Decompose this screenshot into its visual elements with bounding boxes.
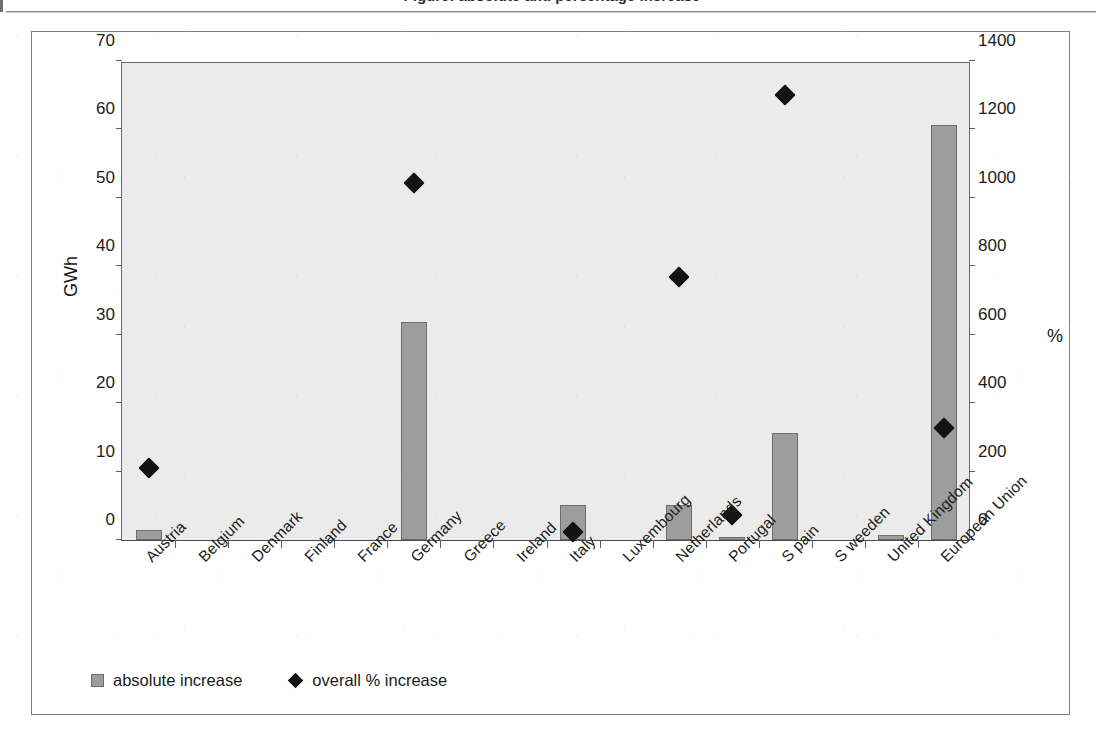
legend-label-absolute-increase: absolute increase <box>113 671 242 690</box>
bar-s-pain <box>772 433 798 540</box>
y-tickmark-left-50 <box>116 197 122 198</box>
y-tickmark-right-1400 <box>969 60 975 61</box>
cropped-title-strip: Figure: absolute and percentage increase <box>0 0 1104 10</box>
marker-portugal <box>722 504 743 525</box>
page-title: Figure: absolute and percentage increase <box>0 0 1104 4</box>
y-tickmark-left-10 <box>116 471 122 472</box>
x-tickmark-8 <box>547 540 548 548</box>
marker-austria <box>138 458 159 479</box>
bar-united-kingdom <box>878 535 904 540</box>
y-tickmark-left-30 <box>116 334 122 335</box>
header-rule-shadow <box>6 12 1096 13</box>
diamond-swatch-icon <box>288 673 304 689</box>
plot-inner: 0102030405060700200400600800100012001400 <box>122 63 969 540</box>
y-tickmark-left-70 <box>116 60 122 61</box>
y-tick-right-1200: 1200 <box>978 99 1016 119</box>
y-tickmark-right-0 <box>969 539 975 540</box>
y-tick-right-0: 0 <box>978 510 987 530</box>
y-tickmark-left-60 <box>116 128 122 129</box>
bar-netherlands <box>666 505 692 540</box>
x-tickmark-11 <box>706 540 707 548</box>
x-tickmark-1 <box>175 540 176 548</box>
y-axis-title-right: % <box>1047 326 1063 347</box>
y-tick-left-30: 30 <box>96 305 115 325</box>
y-tick-right-600: 600 <box>978 305 1006 325</box>
y-tick-right-200: 200 <box>978 442 1006 462</box>
x-tickmark-2 <box>228 540 229 548</box>
y-tick-left-0: 0 <box>106 510 115 530</box>
x-tickmark-14 <box>865 540 866 548</box>
y-tickmark-right-600 <box>969 334 975 335</box>
y-tick-left-60: 60 <box>96 99 115 119</box>
y-tick-left-10: 10 <box>96 442 115 462</box>
x-tickmark-10 <box>653 540 654 548</box>
y-tick-right-1400: 1400 <box>978 31 1016 51</box>
y-tick-right-1000: 1000 <box>978 168 1016 188</box>
legend-item-absolute-increase: absolute increase <box>91 671 242 690</box>
y-tickmark-left-0 <box>116 539 122 540</box>
x-tickmark-3 <box>281 540 282 548</box>
y-tickmark-right-1000 <box>969 197 975 198</box>
bar-austria <box>136 530 162 540</box>
x-tickmark-4 <box>334 540 335 548</box>
y-tick-left-20: 20 <box>96 373 115 393</box>
x-tickmark-9 <box>600 540 601 548</box>
y-tickmark-right-200 <box>969 471 975 472</box>
chart: GWh % 0102030405060700200400600800100012… <box>31 31 1070 715</box>
plot-area: 0102030405060700200400600800100012001400 <box>121 62 970 541</box>
y-tick-left-70: 70 <box>96 31 115 51</box>
x-tickmark-13 <box>812 540 813 548</box>
y-tickmark-left-20 <box>116 402 122 403</box>
marker-s-pain <box>775 84 796 105</box>
y-tickmark-right-400 <box>969 402 975 403</box>
y-tick-right-800: 800 <box>978 236 1006 256</box>
y-tickmark-right-1200 <box>969 128 975 129</box>
marker-netherlands <box>669 266 690 287</box>
bar-portugal <box>719 537 745 540</box>
bar-swatch-icon <box>91 674 104 687</box>
bar-germany <box>401 322 427 540</box>
x-tickmark-12 <box>759 540 760 548</box>
x-tickmark-5 <box>387 540 388 548</box>
y-tick-right-400: 400 <box>978 373 1006 393</box>
y-tick-left-50: 50 <box>96 168 115 188</box>
y-tickmark-left-40 <box>116 265 122 266</box>
legend-item-overall-percent-increase: overall % increase <box>288 671 447 690</box>
bar-european-union <box>931 125 957 540</box>
y-tickmark-right-800 <box>969 265 975 266</box>
chart-legend: absolute increase overall % increase <box>91 671 447 690</box>
x-tickmark-15 <box>918 540 919 548</box>
scanned-page: Figure: absolute and percentage increase… <box>0 0 1104 743</box>
legend-label-overall-percent-increase: overall % increase <box>312 671 447 690</box>
x-tickmark-6 <box>440 540 441 548</box>
y-axis-title-left: GWh <box>61 256 82 297</box>
y-tick-left-40: 40 <box>96 236 115 256</box>
marker-germany <box>403 173 424 194</box>
x-tickmark-7 <box>493 540 494 548</box>
